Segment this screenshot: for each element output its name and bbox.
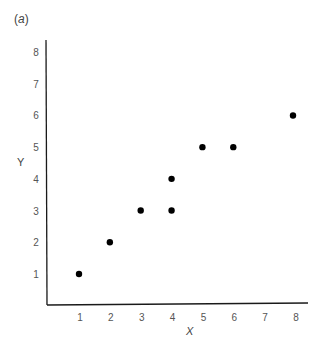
y-tick-label: 1 [33,269,39,280]
x-tick-label: 2 [108,312,114,323]
y-tick-label: 3 [33,206,39,217]
x-tick-label: 7 [262,312,268,323]
x-tick-labels: 12345678 [77,312,299,323]
x-tick-label: 1 [77,312,83,323]
data-points [76,112,296,277]
y-axis-title: Y [17,156,25,168]
x-tick-label: 8 [293,312,299,323]
scatter-plot: 12345678 12345678 X Y [0,0,321,355]
x-tick-label: 6 [232,312,238,323]
y-tick-label: 2 [33,237,39,248]
x-tick-label: 3 [139,312,145,323]
y-axis-line [46,40,47,305]
data-point [168,176,174,182]
y-tick-labels: 12345678 [33,47,39,280]
data-point [290,112,296,118]
data-point [230,144,236,150]
y-tick-label: 5 [33,142,39,153]
y-tick-label: 7 [33,79,39,90]
data-point [76,271,82,277]
x-tick-label: 5 [201,312,207,323]
y-tick-label: 8 [33,47,39,58]
y-tick-label: 6 [33,110,39,121]
data-point [168,207,174,213]
data-point [107,239,113,245]
x-axis-title: X [185,325,194,337]
x-tick-label: 4 [170,312,176,323]
y-tick-label: 4 [33,174,39,185]
data-point [199,144,205,150]
data-point [138,207,144,213]
x-axis-line [47,303,308,305]
axes [46,40,308,305]
